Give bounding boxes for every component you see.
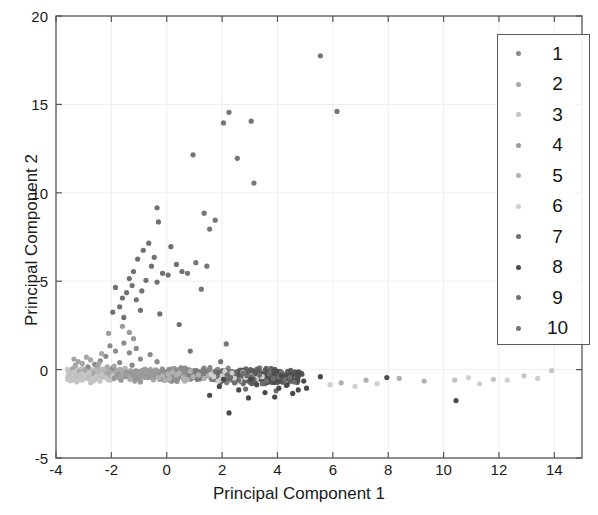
legend-marker-icon [506,234,530,239]
series-4 [106,324,162,385]
legend-marker-icon [506,326,530,331]
legend-item-9[interactable]: 9 [498,282,591,313]
legend-label: 1 [530,43,591,65]
legend-label: 7 [530,226,591,248]
y-axis-title: Principal Component 2 [22,110,42,370]
legend-marker-icon [506,51,530,56]
legend-marker-icon [506,112,530,117]
legend-item-7[interactable]: 7 [498,221,591,252]
y-tick-label: -5 [6,450,48,467]
x-tick-label: 10 [435,461,452,478]
data-points-layer [65,53,554,415]
legend-item-4[interactable]: 4 [498,130,591,161]
legend-label: 9 [530,287,591,309]
legend[interactable]: 12345678910 [497,34,590,345]
scatter-plot-figure: -4-202468101214-505101520 Principal Comp… [0,0,598,515]
legend-label: 8 [530,256,591,278]
x-tick-label: 12 [491,461,508,478]
x-tick-label: 6 [329,461,337,478]
x-tick-label: 0 [163,461,171,478]
legend-item-3[interactable]: 3 [498,99,591,130]
x-tick-label: -4 [49,461,62,478]
legend-marker-icon [506,295,530,300]
legend-label: 10 [530,317,591,339]
legend-item-5[interactable]: 5 [498,160,591,191]
legend-marker-icon [506,173,530,178]
legend-item-2[interactable]: 2 [498,69,591,100]
x-axis-title: Principal Component 1 [0,484,598,504]
legend-label: 3 [530,104,591,126]
legend-marker-icon [506,82,530,87]
x-tick-label: -2 [105,461,118,478]
y-tick-label: 20 [6,8,48,25]
legend-label: 5 [530,165,591,187]
legend-label: 6 [530,195,591,217]
legend-item-8[interactable]: 8 [498,252,591,283]
x-tick-label: 14 [546,461,563,478]
x-tick-label: 2 [218,461,226,478]
legend-marker-icon [506,204,530,209]
series-9 [110,205,184,327]
legend-item-1[interactable]: 1 [498,38,591,69]
legend-label: 2 [530,73,591,95]
x-tick-label: 4 [273,461,281,478]
legend-marker-icon [506,265,530,270]
legend-item-6[interactable]: 6 [498,191,591,222]
legend-item-10[interactable]: 10 [498,313,591,344]
legend-marker-icon [506,143,530,148]
series-10 [185,53,340,364]
x-tick-label: 8 [384,461,392,478]
legend-label: 4 [530,134,591,156]
